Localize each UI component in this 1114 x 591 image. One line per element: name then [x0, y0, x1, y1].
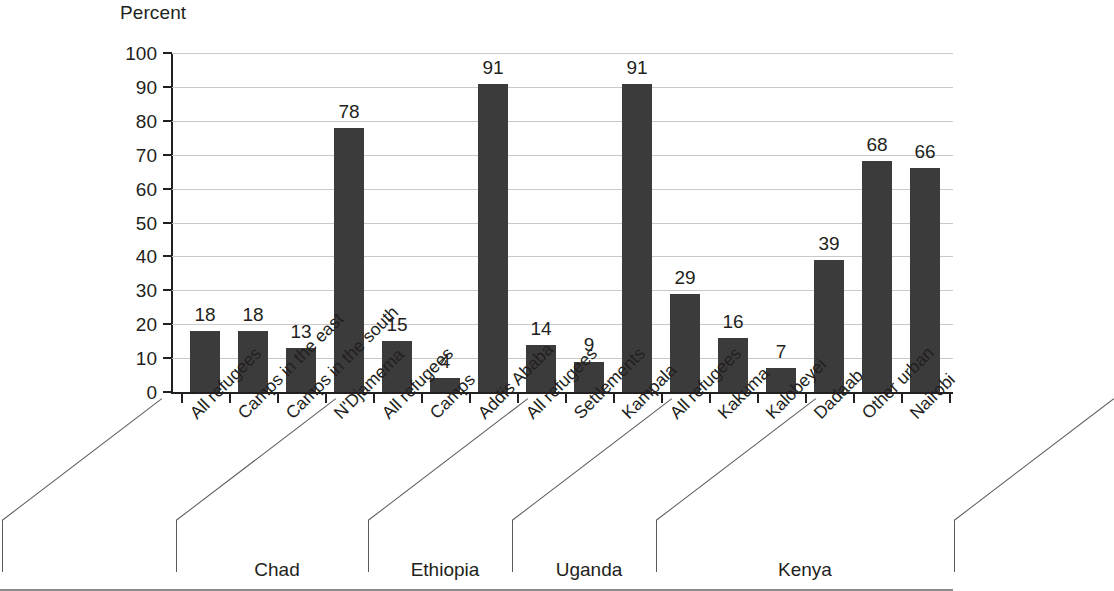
- bar-value-label: 39: [800, 234, 858, 253]
- y-axis-tick: [163, 86, 172, 88]
- y-axis-tick-label: 80: [97, 112, 157, 131]
- y-axis-tick-label: 20: [97, 315, 157, 334]
- y-axis-tick-label: 30: [97, 281, 157, 300]
- x-axis-tick: [709, 392, 711, 403]
- y-axis-tick: [163, 391, 172, 393]
- x-axis-tick: [805, 392, 807, 403]
- gridline: [172, 121, 953, 122]
- gridline: [172, 155, 953, 156]
- bar-value-label: 66: [896, 142, 954, 161]
- group-label: Kenya: [656, 560, 954, 579]
- group-bracket-vertical: [954, 520, 955, 572]
- bar-value-label: 29: [656, 268, 714, 287]
- y-axis-tick-label: 90: [97, 78, 157, 97]
- bar-value-label: 4: [416, 352, 474, 371]
- y-axis-tick-label: 70: [97, 146, 157, 165]
- x-axis-tick: [661, 392, 663, 403]
- x-axis-tick: [901, 392, 903, 403]
- y-axis-tick: [163, 255, 172, 257]
- x-axis-tick: [469, 392, 471, 403]
- x-axis-tick: [325, 392, 327, 403]
- group-label: Chad: [176, 560, 378, 579]
- bar-value-label: 15: [368, 315, 426, 334]
- y-axis-tick-label: 50: [97, 214, 157, 233]
- x-axis-tick: [757, 392, 759, 403]
- gridline: [172, 223, 953, 224]
- y-axis-tick: [163, 323, 172, 325]
- gridline: [172, 189, 953, 190]
- bar-value-label: 13: [272, 322, 330, 341]
- bar-value-label: 9: [560, 335, 618, 354]
- x-axis-tick: [949, 392, 951, 403]
- y-axis-tick-labels: 1009080706050403020100: [95, 0, 157, 591]
- y-axis-tick: [163, 52, 172, 54]
- group-bracket-diagonal: [954, 398, 1114, 521]
- x-axis-tick: [373, 392, 375, 403]
- y-axis-tick-label: 40: [97, 247, 157, 266]
- y-axis-tick: [163, 154, 172, 156]
- gridline: [172, 53, 953, 54]
- y-axis-tick-label: 60: [97, 180, 157, 199]
- bar: [478, 84, 508, 392]
- gridline: [172, 87, 953, 88]
- x-axis-tick: [613, 392, 615, 403]
- x-axis-tick: [277, 392, 279, 403]
- bar-value-label: 91: [608, 58, 666, 77]
- gridline: [172, 256, 953, 257]
- x-axis-tick: [565, 392, 567, 403]
- group-label: Uganda: [512, 560, 666, 579]
- y-axis-tick: [163, 222, 172, 224]
- bar: [862, 161, 892, 392]
- y-axis-tick: [163, 188, 172, 190]
- x-axis-tick: [853, 392, 855, 403]
- x-axis-tick: [229, 392, 231, 403]
- y-axis-tick-label: 10: [97, 349, 157, 368]
- y-axis-tick: [163, 357, 172, 359]
- group-bracket-vertical: [2, 520, 3, 572]
- x-axis-tick: [421, 392, 423, 403]
- x-axis-tick: [517, 392, 519, 403]
- y-axis-tick: [163, 120, 172, 122]
- bar-value-label: 16: [704, 312, 762, 331]
- y-axis-tick: [163, 289, 172, 291]
- group-label: Ethiopia: [368, 560, 522, 579]
- bar-value-label: 78: [320, 102, 378, 121]
- bar-value-label: 7: [752, 342, 810, 361]
- y-axis-tick-label: 100: [97, 44, 157, 63]
- bar-value-label: 91: [464, 58, 522, 77]
- x-axis-tick: [181, 392, 183, 403]
